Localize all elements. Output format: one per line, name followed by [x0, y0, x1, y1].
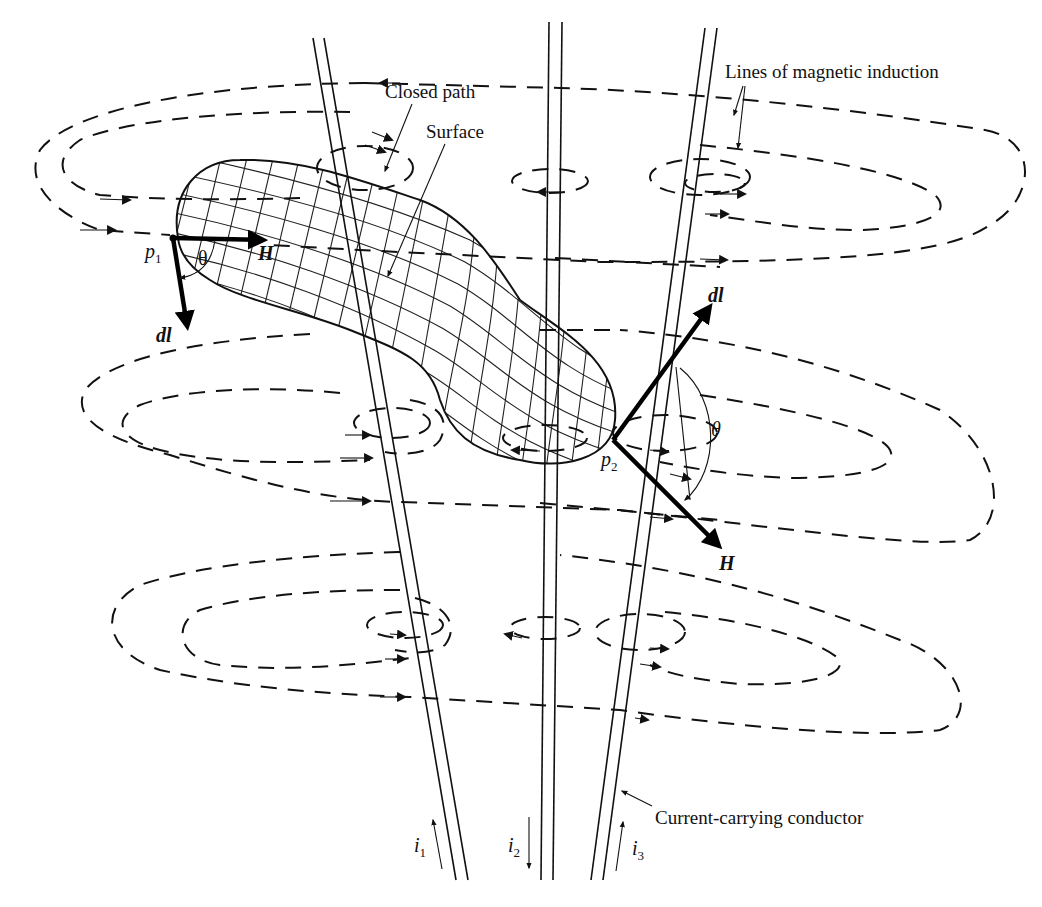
label-i3: i3 [632, 837, 644, 863]
label-theta-p2: θ [711, 418, 721, 440]
label-lines-of-magnetic-induction: Lines of magnetic induction [725, 61, 939, 82]
label-i2: i2 [508, 834, 520, 860]
vectors-p2 [613, 308, 718, 545]
label-closed-path: Closed path [385, 81, 476, 102]
label-theta-p1: θ [198, 247, 208, 269]
label-surface: Surface [426, 121, 484, 142]
label-current-carrying-conductor: Current-carrying conductor [655, 807, 864, 828]
label-p1: p1 [143, 240, 162, 266]
field-lines-bottom [112, 552, 961, 733]
field-lines-middle [82, 330, 994, 542]
label-dl-p1: dl [156, 324, 172, 346]
conductor-1 [313, 38, 468, 880]
label-dl-p2: dl [708, 284, 724, 306]
vectors-p1 [170, 235, 263, 326]
label-i1: i1 [414, 834, 426, 860]
ampere-law-diagram: Lines of magnetic induction Closed path … [0, 0, 1042, 907]
label-p2: p2 [599, 448, 618, 474]
label-H-p1: H [257, 242, 275, 264]
closed-path-outline [177, 160, 616, 464]
label-H-p2: H [718, 552, 736, 574]
